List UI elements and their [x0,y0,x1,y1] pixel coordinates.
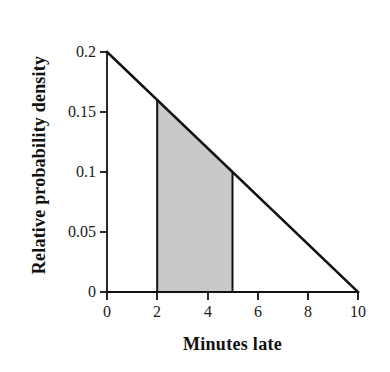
y-tick-label-0-15: 0.15 [68,104,96,120]
x-tick-label-4: 4 [204,304,212,320]
y-tick-label-0-1: 0.1 [76,164,96,180]
x-tick-label-6: 6 [254,304,262,320]
y-axis-title: Relative probability density [22,20,56,310]
y-axis-ticks [100,52,107,292]
x-tick-label-8: 8 [304,304,312,320]
probability-density-chart: 0 0.05 0.1 0.15 0.2 0 2 4 6 8 10 Minutes… [0,0,390,372]
y-tick-label-0: 0 [88,284,96,300]
x-tick-label-10: 10 [350,304,366,320]
x-axis-title: Minutes late [107,334,358,355]
x-tick-label-0: 0 [103,304,111,320]
y-tick-label-0-2: 0.2 [76,44,96,60]
chart-canvas [0,0,390,372]
y-tick-label-0-05: 0.05 [68,224,96,240]
x-axis-ticks [107,292,358,300]
shaded-area-region [157,100,232,292]
x-tick-label-2: 2 [153,304,161,320]
